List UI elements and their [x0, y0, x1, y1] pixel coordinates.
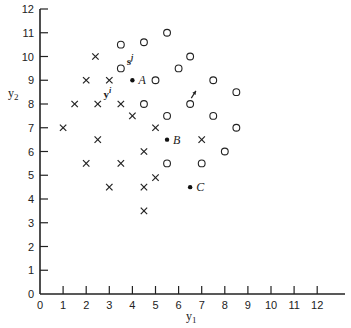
y-tick-label: 10: [22, 51, 34, 63]
cross-marker: [106, 77, 112, 83]
cross-marker: [141, 184, 147, 190]
y-tick-label: 1: [28, 264, 34, 276]
point-label-b: B: [173, 133, 181, 147]
cross-marker: [118, 101, 124, 107]
y-tick-label: 6: [28, 146, 34, 158]
cross-marker: [92, 53, 98, 59]
cross-marker: [199, 136, 205, 142]
y-tick-label: 7: [28, 122, 34, 134]
cross-marker: [95, 101, 101, 107]
x-tick-label: 3: [106, 299, 112, 311]
cross-marker: [60, 125, 66, 131]
circle-marker: [164, 160, 171, 167]
x-tick-label: 0: [37, 299, 43, 311]
labeled-points: ABC: [130, 73, 205, 194]
point-label-a: A: [137, 73, 146, 87]
annotations: sjyi: [104, 53, 196, 100]
point-label-c: C: [196, 180, 205, 194]
point-c: [188, 185, 192, 189]
y-tick-label: 9: [28, 74, 34, 86]
cross-marker: [95, 136, 101, 142]
circle-marker: [221, 148, 228, 155]
circle-marker: [164, 29, 171, 36]
x-tick-label: 9: [245, 299, 251, 311]
x-tick-label: 11: [288, 299, 299, 311]
y-tick-label: 4: [28, 193, 34, 205]
x-axis: 0123456789101112: [37, 286, 345, 311]
y-tick-label: 0: [28, 288, 34, 300]
y-tick-label: 2: [28, 241, 34, 253]
point-b: [165, 137, 169, 141]
x-tick-label: 2: [83, 299, 89, 311]
y-tick-label: 8: [28, 98, 34, 110]
y-tick-label: 5: [28, 169, 34, 181]
x-tick-label: 7: [199, 299, 205, 311]
cross-marker: [71, 101, 77, 107]
y-tick-label: 12: [22, 3, 34, 15]
circle-marker: [187, 53, 194, 60]
cross-marker: [83, 77, 89, 83]
cross-marker: [152, 174, 158, 180]
cross-marker: [129, 113, 135, 119]
cross-marker: [83, 160, 89, 166]
y-axis: 0123456789101112: [22, 3, 48, 300]
cross-marker: [106, 184, 112, 190]
circle-marker: [164, 112, 171, 119]
x-tick-label: 10: [265, 299, 277, 311]
circle-marker: [141, 101, 148, 108]
circle-marker: [175, 65, 182, 72]
circle-marker: [141, 39, 148, 46]
x-axis-label: y1: [186, 309, 197, 325]
circle-marker: [187, 101, 194, 108]
point-a: [130, 78, 134, 82]
y-tick-label: 11: [23, 27, 34, 39]
y-axis-label: y2: [8, 86, 19, 102]
cross-marker: [141, 208, 147, 214]
cross-marker: [118, 160, 124, 166]
cross-markers: [60, 53, 205, 214]
vector-label: yi: [104, 86, 113, 100]
cross-marker: [141, 148, 147, 154]
x-tick-label: 8: [222, 299, 228, 311]
circle-marker: [152, 77, 159, 84]
x-tick-label: 12: [311, 299, 323, 311]
x-tick-label: 6: [176, 299, 182, 311]
scatter-chart: 0123456789101112 0123456789101112 y2 y1 …: [0, 0, 351, 328]
circle-marker: [117, 41, 124, 48]
x-tick-label: 1: [60, 299, 66, 311]
circle-marker: [210, 112, 217, 119]
cross-marker: [152, 125, 158, 131]
y-tick-label: 3: [28, 217, 34, 229]
circle-marker: [117, 65, 124, 72]
circle-marker: [233, 124, 240, 131]
vector-label: sj: [127, 53, 134, 67]
circle-marker: [233, 89, 240, 96]
circle-marker: [198, 160, 205, 167]
x-tick-label: 4: [129, 299, 135, 311]
x-tick-label: 5: [152, 299, 158, 311]
circle-marker: [210, 77, 217, 84]
